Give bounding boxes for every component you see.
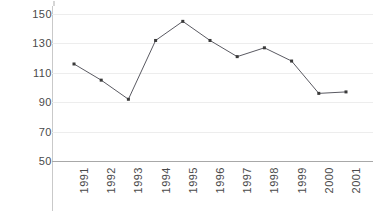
data-point-marker [100, 79, 103, 82]
x-axis-tick-label: 1999 [297, 167, 308, 207]
data-point-marker [236, 55, 239, 58]
x-axis-tick-label: 1997 [242, 167, 253, 207]
y-axis-tick-label: 130 [8, 38, 52, 49]
y-axis-line [52, 6, 53, 211]
x-axis-tick-label: 1994 [161, 167, 172, 207]
y-axis-tick-label: 50 [8, 156, 52, 167]
data-point-marker [263, 46, 266, 49]
gridline [52, 102, 373, 103]
gridline [52, 73, 373, 74]
x-axis-tick-label: 1991 [79, 167, 90, 207]
data-point-marker [73, 62, 76, 65]
y-axis-top-tick-icon [53, 1, 55, 6]
data-point-marker [290, 60, 293, 63]
x-axis-tick-label: 1992 [106, 167, 117, 207]
data-point-marker [317, 92, 320, 95]
x-axis-tick-label: 1998 [269, 167, 280, 207]
data-point-marker [345, 90, 348, 93]
gridline [52, 43, 373, 44]
line-chart: 507090110130150 199119921993199419951996… [0, 0, 379, 214]
data-point-marker [127, 98, 130, 101]
y-axis-tick-label: 70 [8, 126, 52, 137]
y-axis-tick-label: 90 [8, 97, 52, 108]
x-axis-tick-label: 2000 [324, 167, 335, 207]
x-axis-tick-label: 2001 [351, 167, 362, 207]
x-axis-tick-label: 1996 [215, 167, 226, 207]
gridline [52, 132, 373, 133]
gridline [52, 14, 373, 15]
data-point-marker [154, 39, 157, 42]
data-point-marker [209, 39, 212, 42]
x-axis-tick-label: 1993 [133, 167, 144, 207]
y-axis-tick-label: 110 [8, 67, 52, 78]
data-line [74, 21, 346, 99]
x-axis-tick-label: 1995 [188, 167, 199, 207]
y-axis-tick-label: 150 [8, 9, 52, 20]
x-axis-baseline [52, 161, 373, 162]
data-point-marker [181, 20, 184, 23]
